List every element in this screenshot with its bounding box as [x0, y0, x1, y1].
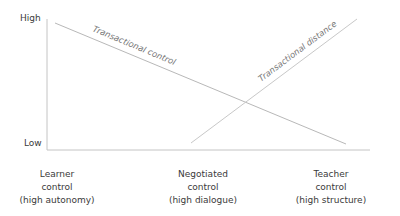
transactional-control-label: Transactional control — [91, 24, 178, 68]
transactional-distance-label: Transactional distance — [256, 18, 338, 83]
y-axis-low-label: Low — [24, 138, 42, 148]
transactional-distance-line — [191, 19, 357, 143]
category-learner-control: Learner control (high autonomy) — [7, 168, 107, 207]
category-negotiated-control: Negotiated control (high dialogue) — [153, 168, 253, 207]
category-teacher-control: Teacher control (high structure) — [281, 168, 381, 207]
y-axis-high-label: High — [20, 13, 41, 23]
transactional-distance-diagram: Transactional control Transactional dist… — [0, 0, 400, 216]
